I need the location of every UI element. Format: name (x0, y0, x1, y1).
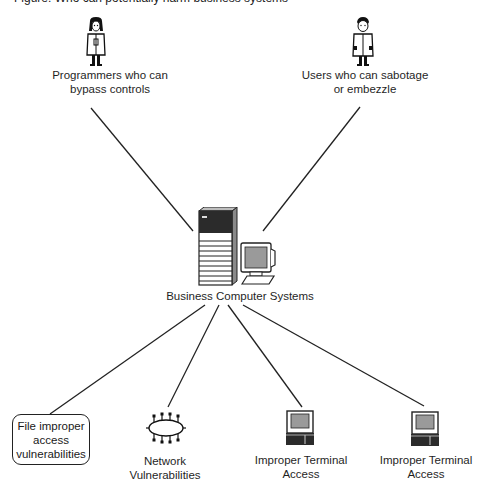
line-center-to-terminal2 (243, 305, 424, 406)
line-center-to-file (50, 305, 205, 414)
network-label: Network Vulnerabilities (115, 454, 215, 482)
terminal-icon (285, 410, 315, 446)
line-center-to-terminal1 (228, 305, 302, 407)
center-label: Business Computer Systems (150, 289, 330, 303)
network-ring-icon (146, 412, 186, 444)
programmers-label: Programmers who can bypass controls (40, 68, 180, 96)
file-access-box: File improper access vulnerabilities (12, 414, 90, 465)
users-label: Users who can sabotage or embezzle (290, 68, 440, 96)
terminal1-label: Improper Terminal Access (245, 453, 357, 481)
terminal-icon (410, 411, 440, 447)
server-and-monitor-icon (196, 207, 280, 287)
terminal2-label: Improper Terminal Access (370, 453, 481, 481)
line-programmers-to-center (91, 108, 193, 231)
female-person-icon (84, 17, 108, 67)
line-center-to-network (168, 305, 219, 407)
male-person-icon (350, 17, 376, 67)
